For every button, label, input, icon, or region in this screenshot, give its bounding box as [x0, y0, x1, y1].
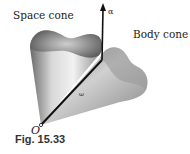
space-cone-label: Space cone [13, 9, 74, 21]
body-cone-label: Body cone [133, 28, 188, 40]
omega-label: ω [79, 90, 84, 97]
cone-figure [0, 0, 190, 154]
figure-caption: Fig. 15.33 [15, 133, 65, 145]
axis-vector-label: α [108, 7, 113, 16]
